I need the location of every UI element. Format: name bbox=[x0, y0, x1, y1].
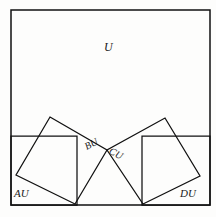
diagram-canvas: U AU DU BU CU bbox=[0, 0, 216, 217]
left-rotated-quadrilateral bbox=[16, 117, 107, 204]
left-region-label: AU bbox=[14, 188, 29, 199]
diagram-svg bbox=[0, 0, 216, 217]
right-subrectangle bbox=[142, 136, 210, 205]
right-region-label: DU bbox=[180, 188, 196, 199]
universe-label: U bbox=[104, 41, 113, 53]
